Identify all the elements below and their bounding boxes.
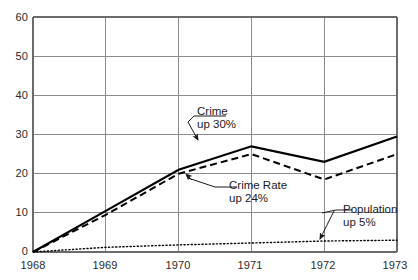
annotation-crime-line1: Crime: [197, 105, 236, 118]
annotation-crime-rate-line2: up 24%: [229, 192, 287, 205]
annotation-population-line1: Population: [343, 203, 397, 216]
series-crime-line: [33, 137, 397, 253]
annotation-crime-rate-line1: Crime Rate: [229, 179, 287, 192]
plot-area: [0, 0, 418, 280]
annotation-crime-rate: Crime Rate up 24%: [229, 179, 287, 205]
annotation-population: Population up 5%: [343, 203, 397, 229]
annotation-population-line2: up 5%: [343, 216, 397, 229]
series-population-line: [33, 240, 397, 252]
annotation-crime-line2: up 30%: [197, 118, 236, 131]
population-leader-arrow: [320, 211, 334, 239]
annotation-crime: Crime up 30%: [197, 105, 236, 131]
crime-rate-leader-arrow: [186, 174, 192, 180]
crime-statistics-line-chart: 60 50 40 30 20 10 0 1968 1969 1970 1971 …: [0, 0, 418, 280]
